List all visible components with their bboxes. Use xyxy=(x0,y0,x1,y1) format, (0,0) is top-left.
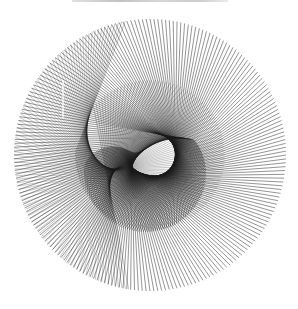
string-art-drawing xyxy=(0,0,298,309)
ray-lines xyxy=(14,19,286,291)
